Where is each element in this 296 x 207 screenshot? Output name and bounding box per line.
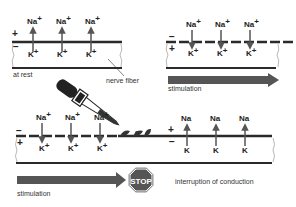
outer-charge-sign: − <box>16 125 22 136</box>
svg-text:Na+: Na+ <box>186 17 201 29</box>
svg-text:K+: K+ <box>39 141 50 153</box>
stop-sign-icon: STOP <box>129 168 153 192</box>
stimulation-label: stimulation <box>168 85 202 92</box>
ion-exchange: Na+ K+ <box>65 110 80 153</box>
svg-text:Na+: Na+ <box>244 17 259 29</box>
svg-text:Na+: Na+ <box>85 14 100 26</box>
svg-text:Na: Na <box>239 114 250 123</box>
ion-exchange: Na+ K+ <box>244 17 259 58</box>
svg-text:Na+: Na+ <box>215 17 230 29</box>
ion-exchange: Na K <box>181 114 192 155</box>
ion-exchange: Na K <box>210 114 221 155</box>
anesthetic-drops-icon <box>120 129 151 136</box>
panel-at-rest: + − Na+ K+ Na+ K+ Na+ K+ at rest <box>12 14 122 78</box>
ion-exchange: Na+ K+ <box>215 17 230 58</box>
ion-exchange: Na+ K+ <box>36 110 51 153</box>
svg-text:Na+: Na+ <box>65 110 80 122</box>
ion-exchange: Na+ K+ <box>27 14 42 59</box>
svg-text:K+: K+ <box>188 46 199 58</box>
svg-text:K: K <box>213 146 219 155</box>
svg-text:K: K <box>242 146 248 155</box>
ion-exchange: Na+ K+ <box>85 14 100 59</box>
svg-text:K+: K+ <box>28 47 39 59</box>
outer-charge-sign: + <box>12 28 18 39</box>
svg-text:Na+: Na+ <box>36 110 51 122</box>
svg-text:K+: K+ <box>68 141 79 153</box>
ion-exchange: Na+ K+ <box>186 17 201 58</box>
svg-text:STOP: STOP <box>130 177 152 186</box>
svg-text:Na: Na <box>210 114 221 123</box>
outer-charge-sign: + <box>168 124 174 135</box>
svg-text:K+: K+ <box>57 47 68 59</box>
inner-charge-sign: − <box>169 136 175 147</box>
dropper-icon <box>54 77 123 131</box>
stimulation-arrow-icon <box>17 172 126 188</box>
svg-text:K+: K+ <box>86 47 97 59</box>
panel-interruption: − + + − Na+ K+ Na+ K+ Na+ K+ Na K Na K <box>16 110 275 197</box>
svg-text:K+: K+ <box>97 141 108 153</box>
stimulation-label: stimulation <box>17 190 51 197</box>
ion-exchange: Na+ K+ <box>94 110 109 153</box>
svg-text:Na+: Na+ <box>56 14 71 26</box>
svg-text:Na: Na <box>181 114 192 123</box>
svg-text:Na+: Na+ <box>27 14 42 26</box>
svg-text:K+: K+ <box>246 46 257 58</box>
inner-charge-sign: − <box>13 41 19 52</box>
nerve-conduction-diagram: + − Na+ K+ Na+ K+ Na+ K+ at rest nerve f… <box>0 0 296 207</box>
nerve-fiber-annotation: nerve fiber <box>106 59 140 84</box>
svg-text:K: K <box>184 146 190 155</box>
nerve-fiber-label: nerve fiber <box>106 77 140 84</box>
outer-charge-sign: − <box>169 31 175 42</box>
inner-charge-sign: + <box>17 137 23 148</box>
inner-charge-sign: + <box>169 43 175 54</box>
ion-exchange: Na K <box>239 114 250 155</box>
svg-text:K+: K+ <box>217 46 228 58</box>
panel-stimulation: − + Na+ K+ Na+ K+ Na+ K+ stimulation <box>166 17 296 92</box>
interruption-label: interruption of conduction <box>175 178 254 186</box>
at-rest-label: at rest <box>13 71 33 78</box>
ion-exchange: Na+ K+ <box>56 14 71 59</box>
